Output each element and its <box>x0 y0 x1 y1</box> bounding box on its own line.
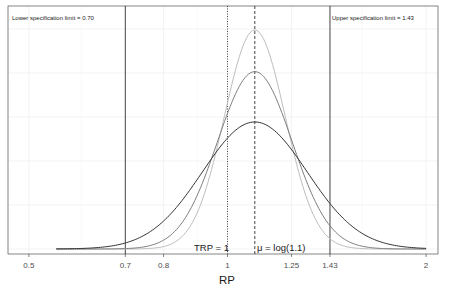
x-tick-label: 1.43 <box>322 261 338 270</box>
x-tick-label: 0.5 <box>23 261 35 270</box>
density-wide-curve <box>56 122 426 249</box>
density-chart: 0.50.70.811.251.432 Lower specification … <box>0 0 451 292</box>
grid-lines <box>8 6 438 254</box>
trp-label: TRP = 1 <box>194 242 229 253</box>
x-tick-label: 2 <box>424 261 429 270</box>
upper-spec-label: Upper specification limit = 1.43 <box>332 15 415 21</box>
density-medium-curve <box>56 72 426 249</box>
x-tick-label: 1.25 <box>284 261 300 270</box>
x-axis-ticks: 0.50.70.811.251.432 <box>23 254 429 270</box>
density-curves <box>56 30 426 249</box>
x-tick-label: 0.7 <box>120 261 132 270</box>
density-narrow-curve <box>56 30 426 249</box>
plot-panel-border <box>8 6 438 254</box>
lower-spec-label: Lower specification limit = 0.70 <box>12 15 95 21</box>
x-tick-label: 1 <box>225 261 230 270</box>
x-tick-label: 0.8 <box>158 261 170 270</box>
x-axis-title: RP <box>219 274 235 286</box>
mu-label: μ = log(1.1) <box>257 242 306 253</box>
